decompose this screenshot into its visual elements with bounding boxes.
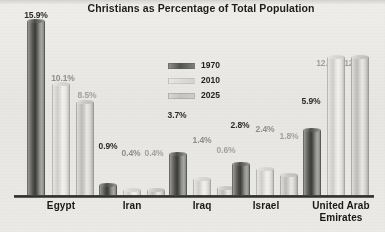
category-label-egypt: Egypt [24,200,98,212]
bar-egypt-2010 [52,84,70,195]
bar-value-label: 0.4% [139,148,169,158]
category-label-uae: United Arab Emirates [300,200,382,224]
chart-container: Christians as Percentage of Total Popula… [0,0,385,232]
category-label-line: United Arab [300,200,382,212]
bar-iran-1970 [99,185,117,195]
bar-israel-2025 [280,175,298,195]
bar-value-label: 0.6% [210,145,242,155]
category-label-line: Iran [96,200,168,212]
bar-value-label: 3.7% [161,110,193,120]
legend-label: 2025 [201,90,220,100]
category-label-line: Egypt [24,200,98,212]
category-label-iraq: Iraq [166,200,238,212]
bar-value-label: 8.5% [69,90,105,100]
category-label-line: Israel [230,200,302,212]
bar-iraq-2010 [193,179,211,195]
legend-swatch-icon [168,78,195,84]
category-label-line: Emirates [300,212,382,224]
legend-swatch-icon [168,93,195,99]
bar-uae-1970 [303,130,321,195]
legend-label: 2010 [201,75,220,85]
category-label-israel: Israel [230,200,302,212]
legend-swatch-icon [168,63,195,69]
bar-israel-1970 [232,164,250,195]
category-label-line: Iraq [166,200,238,212]
bar-value-label: 5.9% [295,96,327,106]
bar-israel-2010 [256,169,274,195]
bar-uae-2010 [327,57,345,195]
bar-egypt-2025 [76,102,94,195]
bar-value-label: 1.8% [273,131,305,141]
x-axis-baseline [14,195,374,198]
bar-egypt-1970 [27,21,45,195]
plot-area: 15.9% 10.1% 8.5% Egypt 0.9% 0.4% 0.4% Ir… [0,0,385,232]
bar-iraq-1970 [169,154,187,195]
bar-value-label: 1.4% [186,135,218,145]
legend-label: 1970 [201,60,220,70]
category-label-iran: Iran [96,200,168,212]
bar-uae-2025 [351,57,369,195]
